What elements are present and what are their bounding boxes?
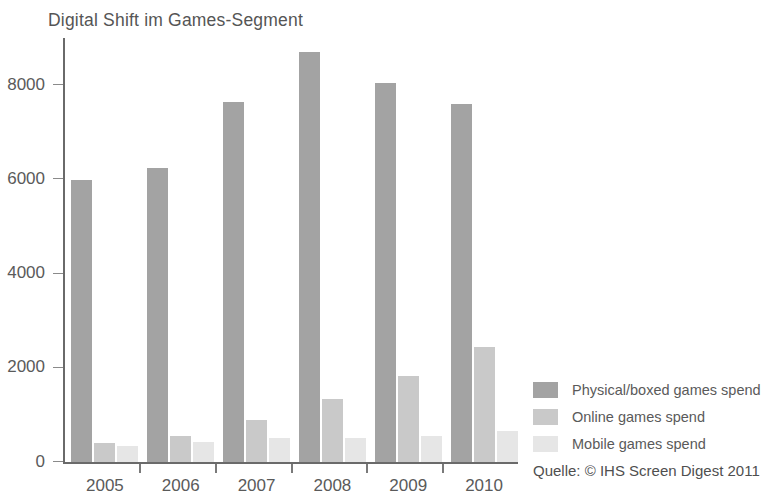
legend-label: Mobile games spend bbox=[572, 436, 706, 452]
legend-item: Mobile games spend bbox=[533, 430, 777, 457]
x-axis-tick-label: 2008 bbox=[313, 476, 351, 495]
legend-swatch bbox=[533, 409, 558, 425]
x-axis-tick-label: 2009 bbox=[389, 476, 427, 495]
bar bbox=[451, 104, 472, 462]
y-axis-tick-label: 6000 bbox=[7, 169, 45, 189]
bar bbox=[170, 436, 191, 462]
x-axis-tick-label: 2006 bbox=[162, 476, 200, 495]
y-axis-tick: 4000 bbox=[53, 273, 63, 274]
chart-title: Digital Shift im Games-Segment bbox=[48, 10, 303, 31]
bar bbox=[474, 347, 495, 462]
legend-item: Online games spend bbox=[533, 403, 777, 430]
bar bbox=[193, 442, 214, 462]
legend-swatch bbox=[533, 436, 558, 452]
bar bbox=[147, 168, 168, 462]
bar bbox=[299, 52, 320, 462]
plot-area: 02000400060008000 2005200620072008200920… bbox=[63, 38, 518, 464]
x-axis-tick-label: 2010 bbox=[465, 476, 503, 495]
y-axis-tick: 2000 bbox=[53, 367, 63, 368]
x-axis-tick bbox=[215, 464, 217, 473]
bar bbox=[375, 83, 396, 462]
y-axis-tick-label: 8000 bbox=[7, 75, 45, 95]
legend-label: Physical/boxed games spend bbox=[572, 382, 761, 398]
x-axis-tick bbox=[139, 464, 141, 473]
legend-label: Online games spend bbox=[572, 409, 705, 425]
x-axis-tick bbox=[291, 464, 293, 473]
bar bbox=[345, 438, 366, 462]
y-axis-tick-label: 4000 bbox=[7, 263, 45, 283]
x-axis-tick-label: 2005 bbox=[86, 476, 124, 495]
bar bbox=[269, 438, 290, 462]
bar bbox=[223, 102, 244, 462]
bar bbox=[94, 443, 115, 462]
source-note: Quelle: © IHS Screen Digest 2011 bbox=[533, 462, 760, 479]
y-axis-line bbox=[63, 38, 65, 464]
x-axis-tick bbox=[366, 464, 368, 473]
y-axis-tick: 6000 bbox=[53, 178, 63, 179]
y-axis-tick-label: 0 bbox=[36, 452, 45, 472]
chart-legend: Physical/boxed games spendOnline games s… bbox=[533, 376, 777, 457]
legend-item: Physical/boxed games spend bbox=[533, 376, 777, 403]
bar bbox=[117, 446, 138, 462]
x-axis-tick-label: 2007 bbox=[238, 476, 276, 495]
x-axis-tick bbox=[442, 464, 444, 473]
y-axis-tick: 8000 bbox=[53, 84, 63, 85]
bar bbox=[246, 420, 267, 462]
legend-swatch bbox=[533, 382, 558, 398]
bar bbox=[322, 399, 343, 462]
y-axis-tick-label: 2000 bbox=[7, 357, 45, 377]
y-axis-tick: 0 bbox=[53, 461, 63, 462]
bar bbox=[71, 180, 92, 462]
bar bbox=[398, 376, 419, 462]
bar bbox=[421, 436, 442, 462]
bar bbox=[497, 431, 518, 462]
